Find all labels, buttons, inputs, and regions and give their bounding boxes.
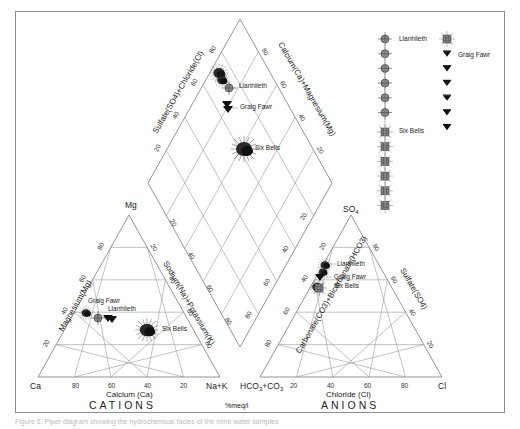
units-label: %meq/l [225,402,249,410]
svg-text:80: 80 [243,310,253,320]
vertex-so4: SO4 [343,204,359,215]
svg-text:40: 40 [280,244,290,254]
sulfate-axis-label: Sulfate(SO4) [398,267,429,312]
svg-text:80: 80 [263,338,273,348]
anions-title: ANIONS [321,399,379,411]
svg-text:20: 20 [152,143,162,153]
point-label-sixbells-diamond: Six Bells [255,144,281,151]
calcium-axis-label: Calcium (Ca) [106,390,153,399]
point-label-sixbells-cation: Six Bells [162,325,188,332]
svg-text:40: 40 [187,251,197,261]
vertex-ca: Ca [30,381,41,391]
point-label-graig-cation: Graig Fawr [88,297,121,305]
point-label-llanhileth-anion: Llanhileth [337,260,365,267]
svg-text:40: 40 [408,307,418,317]
tick-cation-40: 40 [144,382,152,389]
tick-anion-20: 20 [290,382,298,389]
svg-text:20: 20 [316,145,326,155]
svg-text:80: 80 [261,47,271,57]
svg-text:60: 60 [390,275,400,285]
figure-caption: Figure 5. Piper diagram showing the hydr… [15,418,278,425]
point-label-llanhileth-cation: Llanhileth [108,305,136,312]
legend-label-sixbells: Six Bells [399,127,425,134]
svg-text:60: 60 [281,306,291,316]
legend-label-graig: Graig Fawr [458,51,491,59]
svg-text:20: 20 [426,340,436,350]
label-layer: Mg Ca Na+K 80 60 40 20 Calcium (Ca) CATI… [30,35,491,411]
svg-text:20: 20 [169,218,179,228]
vertex-hco3-co3: HCO3+CO3 [240,381,284,392]
chloride-axis-label: Chloride (Cl) [326,390,371,399]
tick-cation-60: 60 [108,382,116,389]
legend-label-llanhileth: Llanhileth [399,35,427,42]
point-label-graig-diamond: Graig Fawr [240,103,273,111]
svg-text:20: 20 [318,241,328,251]
svg-text:40: 40 [297,112,307,122]
diamond-ur-axis-label: Calcium(Ca)+Magnesium(Mg) [276,41,337,138]
diamond-ul-axis-label: Sulfate(SO4)+Chloride(Cl) [151,49,206,135]
tick-anion-40: 40 [327,382,335,389]
tick-cation-80: 80 [72,382,80,389]
tick-anion-80: 80 [401,382,409,389]
point-label-sixbells-anion: Six Bells [334,282,360,289]
svg-text:20: 20 [149,242,159,252]
svg-text:60: 60 [279,80,289,90]
svg-text:80: 80 [207,44,217,54]
svg-text:80: 80 [224,316,234,326]
vertex-nak: Na+K [206,381,228,391]
vertex-cl: Cl [438,381,446,391]
point-label-graig-anion: Graig Fawr [334,273,367,281]
sodium-axis-label: Sodium(Na)+Potassium(K) [161,260,217,347]
grid-layer: 2020202020208080404040404040606060606060… [38,19,442,377]
svg-text:60: 60 [262,277,272,287]
tick-cation-20: 20 [180,382,188,389]
svg-text:60: 60 [205,283,215,293]
cations-title: CATIONS [89,399,156,411]
svg-text:20: 20 [298,211,308,221]
tick-anion-60: 60 [364,382,372,389]
svg-text:80: 80 [96,241,106,251]
vertex-mg: Mg [125,200,137,210]
svg-text:80: 80 [371,242,381,252]
svg-text:20: 20 [41,338,51,348]
legend [377,31,455,214]
piper-diagram: 2020202020208080404040404040606060606060… [0,0,520,429]
svg-text:40: 40 [299,273,309,283]
point-label-llanhileth-diamond: Llanhileth [239,82,267,89]
